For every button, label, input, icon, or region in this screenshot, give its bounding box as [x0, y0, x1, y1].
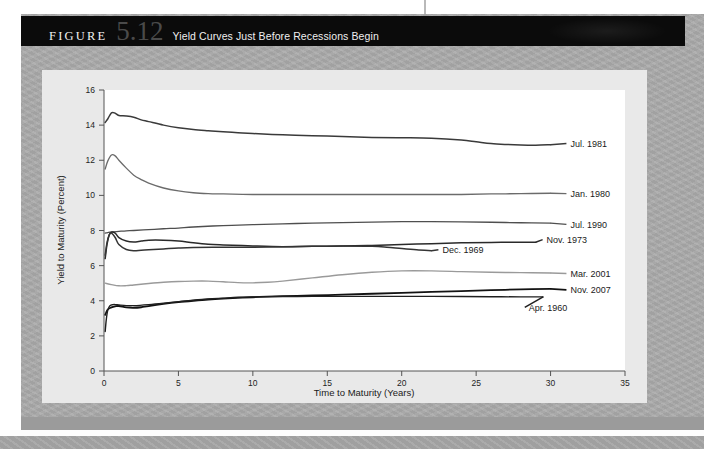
y-tick-label: 14 [86, 120, 96, 130]
leader-line [551, 289, 567, 290]
x-axis-title: Time to Maturity (Years) [314, 387, 415, 398]
series-label: Mar. 2001 [570, 269, 610, 279]
x-tick-label: 10 [248, 378, 258, 388]
series-label: Dec. 1969 [442, 245, 483, 255]
leader-line [551, 144, 567, 145]
yield-curve-jul-1990 [105, 222, 550, 233]
leader-line [551, 223, 567, 224]
y-tick-label: 12 [86, 155, 96, 165]
series-label: Jul. 1990 [570, 220, 607, 230]
series-labels: Jul. 1981Jan. 1980Jul. 1990Nov. 1973Dec.… [442, 139, 610, 313]
leader-line [431, 250, 438, 251]
series-label: Jan. 1980 [570, 189, 610, 199]
yield-curve-dec-1969 [105, 233, 431, 255]
figure-page: FIGURE 5.12 Yield Curves Just Before Rec… [0, 0, 704, 449]
yield-curve-apr-1960 [105, 296, 543, 331]
series-label: Nov. 2007 [570, 285, 610, 295]
series-label: Nov. 1973 [547, 235, 587, 245]
y-tick-label: 4 [90, 296, 95, 306]
y-tick-label: 8 [90, 226, 95, 236]
leader-line [536, 240, 543, 243]
x-tick-label: 25 [471, 378, 481, 388]
yield-curve-jan-1980 [105, 155, 550, 195]
y-tick-label: 2 [90, 331, 95, 341]
yield-curve-jul-1981 [105, 112, 550, 145]
series-label: Apr. 1960 [529, 303, 568, 313]
axis-titles: Time to Maturity (Years) Yield to Maturi… [55, 175, 414, 398]
y-tick-label: 0 [90, 366, 95, 376]
series-label: Jul. 1981 [570, 139, 607, 149]
y-tick-label: 16 [86, 85, 96, 95]
x-tick-label: 35 [620, 378, 630, 388]
x-tick-label: 0 [102, 378, 107, 388]
yield-curve-mar-2001 [105, 271, 550, 286]
leader-line [551, 273, 567, 274]
y-axis-title: Yield to Maturity (Percent) [55, 175, 66, 284]
x-tick-label: 5 [176, 378, 181, 388]
x-tick-label: 30 [546, 378, 556, 388]
yield-curve-chart: 024681012141605101520253035 Jul. 1981Jan… [0, 0, 704, 449]
series-curves [105, 112, 566, 331]
y-tick-label: 10 [86, 190, 96, 200]
y-tick-label: 6 [90, 261, 95, 271]
